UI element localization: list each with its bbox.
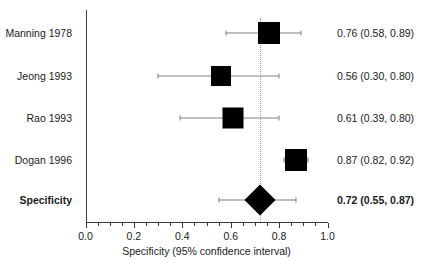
summary-diamond-marker: [244, 184, 275, 215]
x-axis-minor-tick: [122, 223, 123, 226]
y-axis-spine: [86, 10, 87, 222]
study-value-label: 0.56 (0.30, 0.80): [337, 70, 414, 82]
confidence-interval-cap: [279, 116, 280, 121]
x-axis-major-tick: [86, 223, 87, 228]
x-axis-minor-tick: [303, 223, 304, 226]
study-value-label: 0.76 (0.58, 0.89): [337, 27, 414, 39]
confidence-interval-cap: [308, 158, 309, 163]
x-axis-major-tick: [134, 223, 135, 228]
x-axis-minor-tick: [146, 223, 147, 226]
x-axis-tick-label: 0.2: [127, 230, 142, 242]
summary-row-label: Specificity: [19, 194, 72, 206]
x-axis-minor-tick: [291, 223, 292, 226]
x-axis-tick-label: 0.8: [272, 230, 287, 242]
confidence-interval-cap: [158, 74, 159, 79]
x-axis-major-tick: [279, 223, 280, 228]
x-axis-tick-label: 0.4: [175, 230, 190, 242]
study-square-marker: [223, 108, 244, 129]
x-axis-minor-tick: [267, 223, 268, 226]
confidence-interval-cap: [296, 198, 297, 203]
study-square-marker: [258, 22, 280, 44]
study-label-column: Manning 1978Jeong 1993Rao 1993Dogan 1996…: [0, 0, 80, 260]
study-row-label: Manning 1978: [5, 27, 72, 39]
x-axis-major-tick: [231, 223, 232, 228]
x-axis-minor-tick: [243, 223, 244, 226]
x-axis-major-tick: [182, 223, 183, 228]
x-axis-minor-tick: [255, 223, 256, 226]
study-square-marker: [211, 66, 231, 86]
x-axis-minor-tick: [315, 223, 316, 226]
confidence-interval-cap: [279, 74, 280, 79]
x-axis-minor-tick: [158, 223, 159, 226]
study-square-marker: [285, 149, 307, 171]
x-axis-minor-tick: [207, 223, 208, 226]
study-row-label: Dogan 1996: [15, 154, 72, 166]
study-value-label: 0.87 (0.82, 0.92): [337, 154, 414, 166]
confidence-interval-cap: [225, 31, 226, 36]
x-axis-tick-label: 1.0: [320, 230, 335, 242]
study-value-label: 0.61 (0.39, 0.80): [337, 112, 414, 124]
x-axis-minor-tick: [110, 223, 111, 226]
confidence-interval-cap: [179, 116, 180, 121]
x-axis-title: Specificity (95% confidence interval): [122, 245, 291, 257]
summary-value-label: 0.72 (0.55, 0.87): [337, 194, 414, 206]
x-axis-minor-tick: [194, 223, 195, 226]
confidence-interval-cap: [218, 198, 219, 203]
x-axis-minor-tick: [170, 223, 171, 226]
x-axis-major-tick: [328, 223, 329, 228]
x-axis-tick-label: 0.0: [78, 230, 93, 242]
x-axis-minor-tick: [219, 223, 220, 226]
study-row-label: Rao 1993: [26, 112, 72, 124]
confidence-interval-cap: [300, 31, 301, 36]
study-row-label: Jeong 1993: [17, 70, 72, 82]
x-axis-minor-tick: [98, 223, 99, 226]
forest-plot: Manning 1978Jeong 1993Rao 1993Dogan 1996…: [0, 0, 433, 260]
x-axis-tick-label: 0.6: [223, 230, 238, 242]
